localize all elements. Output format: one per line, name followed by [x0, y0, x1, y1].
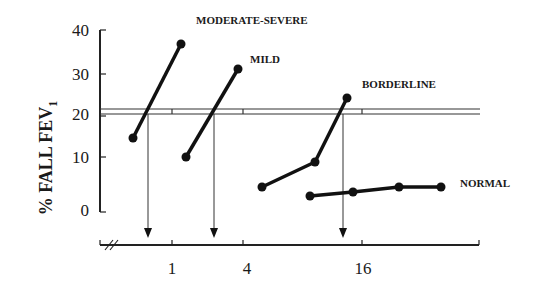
- y-axis: [100, 30, 106, 212]
- label-mild: MILD: [250, 53, 280, 65]
- label-normal: NORMAL: [460, 177, 510, 189]
- y-axis-label: % FALL FEV1: [36, 101, 60, 216]
- x-tick-4: 4: [243, 259, 252, 278]
- arrow-down-icon: [144, 228, 152, 238]
- pc20-threshold-line: [100, 109, 480, 114]
- series-normal: [306, 183, 446, 201]
- pc20-arrows: [144, 114, 347, 238]
- y-tick-10: 10: [72, 148, 89, 167]
- x-tick-16: 16: [355, 259, 372, 278]
- y-tick-30: 30: [72, 65, 89, 84]
- x-tick-1: 1: [168, 259, 177, 278]
- series-borderline: [258, 94, 352, 192]
- arrow-down-icon: [339, 228, 347, 238]
- y-tick-20: 20: [72, 105, 89, 124]
- series-moderate-severe: [129, 40, 186, 143]
- y-tick-40: 40: [72, 21, 89, 40]
- y-tick-0: 0: [81, 201, 90, 220]
- label-moderate-severe: MODERATE-SEVERE: [196, 14, 308, 26]
- x-axis: [100, 240, 479, 245]
- series-mild: [182, 65, 243, 162]
- label-borderline: BORDERLINE: [362, 78, 436, 90]
- svg-text:% FALL FEV1: % FALL FEV1: [36, 101, 60, 216]
- arrow-down-icon: [210, 228, 218, 238]
- fev1-dose-response-chart: % FALL FEV1 40 30 20 10 0 1 4 16: [0, 0, 539, 290]
